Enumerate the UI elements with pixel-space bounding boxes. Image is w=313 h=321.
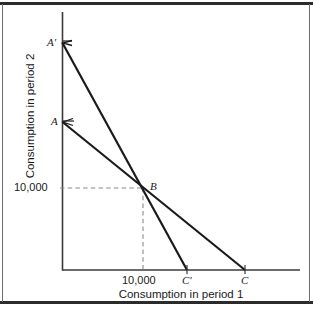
budget-line-a-prime-c-prime xyxy=(63,43,188,270)
point-label-b: B xyxy=(150,181,157,192)
point-label-c: C xyxy=(241,275,248,286)
budget-constraint-chart xyxy=(0,0,313,321)
x-axis-title: Consumption in period 1 xyxy=(62,288,300,300)
x-axis-tick-label: 10,000 xyxy=(122,275,156,286)
figure-panel: A' A B C' C 10,000 10,000 Consumption in… xyxy=(0,0,313,321)
budget-line-a-c xyxy=(63,122,246,270)
y-axis-title: Consumption in period 2 xyxy=(24,36,36,196)
point-label-c-prime: C' xyxy=(182,275,192,286)
point-label-a-prime: A' xyxy=(47,37,56,48)
point-label-a: A xyxy=(51,116,58,127)
